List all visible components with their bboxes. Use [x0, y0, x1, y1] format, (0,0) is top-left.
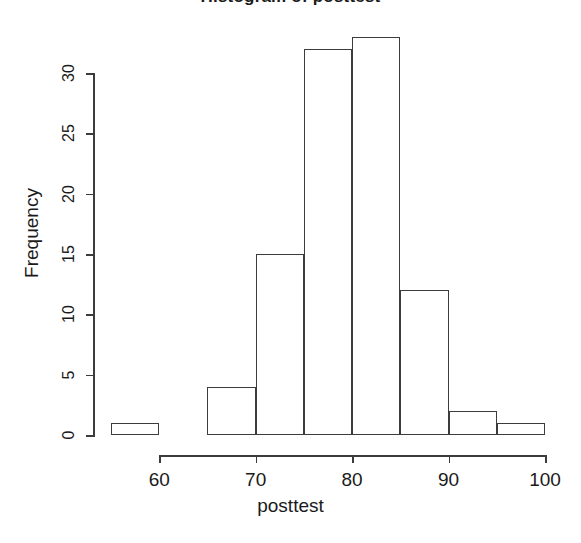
y-axis-tick	[86, 314, 94, 316]
y-axis-tick	[86, 194, 94, 196]
x-axis-tick-label: 90	[426, 469, 472, 491]
x-axis-tick	[449, 455, 451, 463]
chart-title: Histogram of posttest	[0, 0, 581, 7]
histogram-bar	[207, 387, 255, 435]
y-axis-tick	[86, 435, 94, 437]
x-axis-title: posttest	[0, 495, 581, 517]
x-axis-tick	[545, 455, 547, 463]
y-axis-tick-label: 10	[60, 301, 78, 327]
y-axis-tick-label: 5	[60, 362, 78, 388]
y-axis-tick-label: 20	[60, 181, 78, 207]
histogram-bar	[256, 254, 304, 435]
y-axis-tick-label: 25	[60, 120, 78, 146]
x-axis-tick	[256, 455, 258, 463]
y-axis-title: Frequency	[21, 173, 43, 293]
histogram-bar	[400, 290, 448, 435]
y-axis-tick-label: 30	[60, 60, 78, 86]
x-axis-tick-label: 60	[136, 469, 182, 491]
y-axis-tick-label: 0	[60, 422, 78, 448]
x-axis-tick-label: 70	[233, 469, 279, 491]
histogram-bar	[111, 423, 159, 435]
y-axis-tick	[86, 133, 94, 135]
histogram-bar	[304, 49, 352, 435]
x-axis-tick	[352, 455, 354, 463]
histogram-bar	[497, 423, 545, 435]
y-axis-tick	[86, 375, 94, 377]
x-axis-tick-label: 100	[522, 469, 568, 491]
histogram-bar	[449, 411, 497, 435]
y-axis-tick-label: 15	[60, 241, 78, 267]
histogram-bar	[352, 37, 400, 435]
x-axis-tick	[159, 455, 161, 463]
x-axis-tick-label: 80	[329, 469, 375, 491]
y-axis-tick	[86, 254, 94, 256]
plot-area	[111, 36, 545, 435]
histogram-figure: Histogram of posttest 051015202530 Frequ…	[0, 0, 581, 543]
y-axis-tick	[86, 73, 94, 75]
